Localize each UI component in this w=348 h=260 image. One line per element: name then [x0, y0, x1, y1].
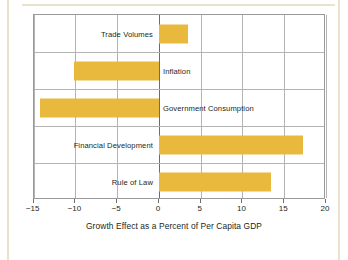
bar-chart: Trade VolumesInflationGovernment Consump…	[0, 0, 348, 260]
x-tick-label-10: 10	[237, 204, 246, 213]
x-tick-mark-10	[241, 199, 242, 203]
bar[interactable]	[159, 24, 188, 43]
x-tick-mark--5	[116, 199, 117, 203]
x-axis-title: Growth Effect as a Percent of Per Capita…	[0, 221, 348, 231]
bar[interactable]	[74, 61, 159, 80]
x-tick-label-5: 5	[197, 204, 201, 213]
bar-category-label: Government Consumption	[163, 103, 254, 112]
x-tick-label-15: 15	[279, 204, 288, 213]
x-tick-label--15: −15	[26, 204, 40, 213]
bar-row: Rule of Law	[34, 163, 324, 200]
bar-category-label: Inflation	[163, 66, 191, 75]
x-tick-mark-15	[283, 199, 284, 203]
bar[interactable]	[159, 135, 303, 154]
bar-category-label: Rule of Law	[112, 177, 153, 186]
bar-row: Financial Development	[34, 126, 324, 163]
bar-category-label: Financial Development	[74, 140, 153, 149]
x-tick-label-0: 0	[156, 204, 160, 213]
bar-row: Inflation	[34, 52, 324, 89]
bar[interactable]	[40, 98, 159, 117]
gridline-x-20	[326, 15, 327, 198]
x-tick-mark--15	[33, 199, 34, 203]
x-tick-mark-0	[158, 199, 159, 203]
x-tick-label--10: −10	[68, 204, 82, 213]
x-tick-label-20: 20	[321, 204, 330, 213]
bar[interactable]	[159, 172, 271, 191]
x-tick-mark--10	[74, 199, 75, 203]
bar-category-label: Trade Volumes	[101, 29, 153, 38]
x-tick-mark-20	[325, 199, 326, 203]
bar-row: Trade Volumes	[34, 15, 324, 52]
x-tick-label--5: −5	[112, 204, 121, 213]
bar-row: Government Consumption	[34, 89, 324, 126]
x-tick-mark-5	[200, 199, 201, 203]
plot-area: Trade VolumesInflationGovernment Consump…	[33, 14, 325, 199]
